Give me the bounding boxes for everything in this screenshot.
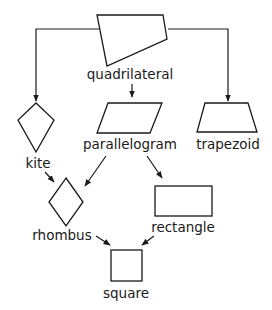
edge-quadrilateral-to-trapezoid bbox=[168, 29, 228, 101]
rectangle-label: rectangle bbox=[151, 219, 215, 235]
node-rhombus: rhombus bbox=[32, 178, 91, 243]
edge-quadrilateral-to-kite bbox=[36, 29, 99, 101]
edge-rectangle-to-square bbox=[142, 236, 154, 245]
node-parallelogram: parallelogram bbox=[83, 103, 177, 152]
rhombus-label: rhombus bbox=[32, 227, 91, 243]
node-rectangle: rectangle bbox=[151, 186, 215, 235]
edge-kite-to-rhombus bbox=[45, 172, 54, 182]
quadrilateral-shape bbox=[97, 15, 167, 66]
square-label: square bbox=[103, 285, 149, 301]
trapezoid-shape bbox=[197, 103, 257, 132]
quadrilateral-hierarchy-diagram: quadrilateral kite parallelogram trapezo… bbox=[0, 0, 272, 310]
kite-label: kite bbox=[25, 155, 50, 171]
rhombus-shape bbox=[49, 178, 83, 226]
edge-rhombus-to-square bbox=[96, 236, 110, 245]
quadrilateral-label: quadrilateral bbox=[87, 66, 173, 82]
parallelogram-shape bbox=[97, 103, 162, 133]
trapezoid-label: trapezoid bbox=[196, 136, 260, 152]
node-kite: kite bbox=[18, 103, 54, 171]
edge-parallelogram-to-rectangle bbox=[147, 156, 162, 178]
edge-parallelogram-to-rhombus bbox=[85, 156, 106, 186]
kite-shape bbox=[18, 103, 54, 152]
rectangle-shape bbox=[155, 186, 212, 216]
node-square: square bbox=[103, 250, 149, 301]
node-quadrilateral: quadrilateral bbox=[87, 15, 173, 82]
square-shape bbox=[111, 250, 142, 281]
parallelogram-label: parallelogram bbox=[83, 136, 177, 152]
node-trapezoid: trapezoid bbox=[196, 103, 260, 152]
